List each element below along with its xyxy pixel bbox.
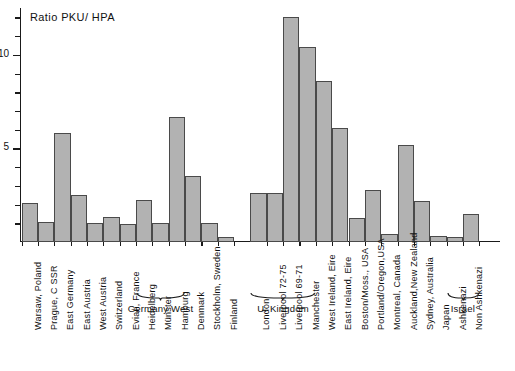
y-axis-major-tick: 10 [13, 55, 20, 56]
bar [365, 190, 381, 242]
x-axis-label: East Ireland, Eire [344, 256, 353, 330]
bar [87, 223, 103, 242]
x-axis-label: Boston/Moss., USA [361, 248, 370, 330]
group-bracket [136, 292, 185, 301]
x-axis-label: Prague, C SSR [50, 265, 59, 330]
bar [283, 17, 299, 242]
bar [398, 145, 414, 242]
x-axis-label: Stockholm, Sweden [213, 246, 222, 330]
x-axis-label: West Ireland, Eire [328, 254, 337, 330]
y-axis-minor-tick [15, 223, 20, 224]
group-bracket [250, 292, 315, 301]
x-axis-label: Portland/Oregon,USA [377, 238, 386, 330]
group-label: Germany West [106, 303, 215, 314]
y-axis-minor-tick [15, 111, 20, 112]
x-axis-label: Warsaw, Poland [34, 262, 43, 330]
y-axis-minor-tick [15, 74, 20, 75]
bar [250, 193, 266, 242]
y-axis-minor-tick [15, 17, 20, 18]
plot-area: 510 [20, 8, 500, 242]
y-axis-major-tick: 5 [13, 148, 20, 149]
x-axis-label: East Germany [66, 269, 75, 330]
x-axis-label: Sydney, Australia [426, 257, 435, 330]
bar [463, 214, 479, 242]
bar [299, 47, 315, 242]
bar [120, 224, 136, 242]
bar [316, 81, 332, 242]
bar [201, 223, 217, 242]
bar [267, 193, 283, 242]
bar [103, 217, 119, 242]
x-axis-label: Montreal, Canada [393, 254, 402, 330]
y-axis-minor-tick [15, 205, 20, 206]
x-axis-labels: Warsaw, PolandPrague, C SSREast GermanyE… [20, 244, 500, 334]
y-axis-tick-label: 5 [3, 141, 9, 152]
y-axis-tick-label: 10 [0, 48, 9, 59]
x-axis-label: Auckland,New Zealand [410, 232, 419, 330]
bar [38, 222, 54, 242]
y-axis-minor-tick [15, 36, 20, 37]
bar [185, 176, 201, 242]
bar-chart: Ratio PKU/ HPA 510 Warsaw, PolandPrague,… [0, 0, 515, 371]
bar [349, 218, 365, 242]
group-label: U. Kingdom [220, 303, 345, 314]
y-axis-minor-tick [15, 186, 20, 187]
bar [218, 237, 234, 242]
bar [152, 223, 168, 242]
bar [430, 236, 446, 242]
bar [169, 117, 185, 242]
bar [447, 237, 463, 242]
y-axis-minor-tick [15, 130, 20, 131]
group-bracket [447, 292, 480, 301]
bar [332, 128, 348, 242]
bar [136, 200, 152, 242]
y-axis-minor-tick [15, 92, 20, 93]
bar [71, 195, 87, 242]
group-label: Israel [417, 303, 510, 314]
bar [22, 203, 38, 242]
bar [54, 133, 70, 243]
x-axis-label: East Austria [83, 279, 92, 330]
y-axis-minor-tick [15, 167, 20, 168]
